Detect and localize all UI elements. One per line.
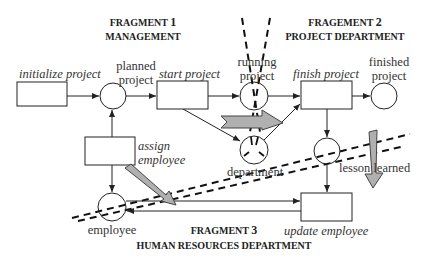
label-lesson-learned: lesson learned bbox=[339, 161, 411, 175]
department-marks bbox=[244, 137, 264, 156]
label-finished-project-2: project bbox=[372, 69, 407, 83]
svg-text:FRAGEMENT 2: FRAGEMENT 2 bbox=[308, 15, 381, 29]
fat-arrow-diagonal bbox=[125, 164, 176, 205]
label-running-project-2: project bbox=[240, 69, 275, 83]
label-running-project-1: running bbox=[238, 55, 278, 69]
svg-text:PROJECT DEPARTMENT: PROJECT DEPARTMENT bbox=[285, 31, 404, 42]
fat-arrow-down bbox=[365, 130, 383, 188]
label-assign-employee-2: employee bbox=[138, 153, 186, 167]
petri-net-diagram: FRAGMENT 1 MANAGEMENT FRAGEMENT 2 PROJEC… bbox=[0, 0, 423, 264]
transition-initialize-project bbox=[17, 82, 67, 106]
label-planned-project-1: planned bbox=[116, 59, 156, 73]
label-finish-project: finish project bbox=[293, 67, 359, 81]
fat-arrow-right bbox=[221, 110, 283, 130]
fragment-1-header: FRAGMENT 1 MANAGEMENT bbox=[105, 15, 181, 42]
place-finished-project bbox=[371, 83, 397, 109]
svg-text:FRAGMENT 1: FRAGMENT 1 bbox=[110, 15, 177, 29]
label-department: department bbox=[227, 165, 284, 179]
label-initialize-project: initialize project bbox=[19, 67, 101, 81]
label-start-project: start project bbox=[159, 67, 221, 81]
label-update-employee: update employee bbox=[284, 224, 369, 238]
svg-text:HUMAN RESOURCES DEPARTMENT: HUMAN RESOURCES DEPARTMENT bbox=[136, 240, 311, 251]
label-planned-project-2: project bbox=[119, 73, 154, 87]
place-employee bbox=[98, 193, 126, 221]
label-finished-project-1: finished bbox=[369, 55, 410, 69]
svg-text:FRAGMENT 3: FRAGMENT 3 bbox=[191, 223, 258, 237]
transition-assign-employee bbox=[85, 137, 135, 165]
transition-finish-project bbox=[301, 81, 352, 109]
svg-text:MANAGEMENT: MANAGEMENT bbox=[105, 31, 181, 42]
transition-update-employee bbox=[301, 193, 352, 221]
transition-start-project bbox=[157, 81, 208, 109]
place-department bbox=[240, 136, 268, 164]
place-lesson-learned bbox=[314, 138, 340, 164]
fragment-2-header: FRAGEMENT 2 PROJECT DEPARTMENT bbox=[285, 15, 404, 42]
label-assign-employee-1: assign bbox=[138, 139, 170, 153]
label-employee: employee bbox=[88, 223, 137, 237]
